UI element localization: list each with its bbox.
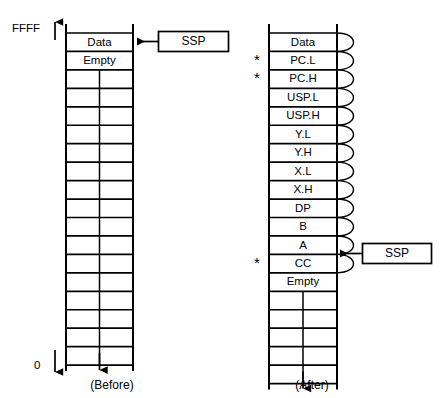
stack-cell-label: X.L xyxy=(294,165,312,177)
brace-lobe xyxy=(337,144,354,162)
brace-lobe xyxy=(337,125,354,143)
brace-lobe xyxy=(337,218,354,236)
brace-lobe xyxy=(337,107,354,125)
stack-cell-label: Empty xyxy=(83,54,116,66)
brace-lobe xyxy=(337,33,354,51)
brace-lobe xyxy=(337,51,354,69)
ssp-before-label: SSP xyxy=(181,34,205,48)
diagram-canvas: DataEmpty DataPC.L*PC.H*USP.LUSP.HY.LY.H… xyxy=(0,0,447,398)
stack-row-asterisk: * xyxy=(254,51,260,68)
stack-cell-label: PC.H xyxy=(289,72,316,84)
before-stack-group xyxy=(66,24,133,371)
stack-cell-label: Data xyxy=(291,36,316,48)
stack-cell-label: PC.L xyxy=(290,54,316,66)
stack-cell-label: X.H xyxy=(293,183,312,195)
brace-lobe xyxy=(337,236,354,254)
stack-row-asterisk: * xyxy=(254,254,260,271)
stack-cell-label: B xyxy=(299,220,307,232)
brace-lobe xyxy=(337,199,354,217)
ssp-pointer-before[interactable]: SSP xyxy=(137,32,229,52)
stack-cell-label: USP.L xyxy=(287,91,319,103)
stack-cell-label: Data xyxy=(87,36,112,48)
stack-row-asterisk: * xyxy=(254,69,260,86)
ssp-after-label: SSP xyxy=(385,246,409,260)
brace-lobe xyxy=(337,88,354,106)
stack-cell-label: CC xyxy=(295,257,312,269)
stack-cell-label: USP.H xyxy=(286,109,320,121)
brace-lobe xyxy=(337,254,354,272)
brace-lobe xyxy=(337,162,354,180)
axis-bottom-label: 0 xyxy=(34,359,40,371)
stack-cell-label: DP xyxy=(295,202,311,214)
stack-cell-label: Empty xyxy=(287,275,320,287)
before-caption: (Before) xyxy=(90,378,133,392)
axis-top-label: FFFF xyxy=(12,22,40,34)
stack-cell-label: A xyxy=(299,239,307,251)
stack-cell-label: Y.H xyxy=(294,146,312,158)
brace-lobe xyxy=(337,70,354,88)
after-caption: (After) xyxy=(295,378,328,392)
stack-cell-label: Y.L xyxy=(295,128,311,140)
stack-diagram: DataEmpty DataPC.L*PC.H*USP.LUSP.HY.LY.H… xyxy=(0,0,447,398)
register-stack-brace xyxy=(337,33,354,273)
brace-lobe xyxy=(337,181,354,199)
